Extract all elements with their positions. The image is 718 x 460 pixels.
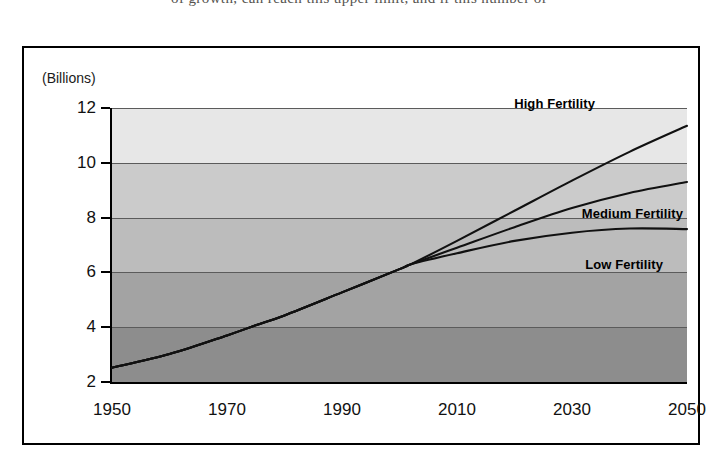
page-body-text-fragment: of growth, can reach this upper limit, a…	[0, 0, 718, 6]
y-tick-mark	[101, 107, 110, 109]
series-line-high-fertility	[112, 126, 687, 368]
plot-area: 24681012 195019701990201020302050 High F…	[110, 108, 687, 384]
x-tick-label: 2050	[668, 400, 706, 420]
x-tick-label: 1990	[323, 400, 361, 420]
y-tick-label: 6	[87, 262, 96, 282]
y-axis-unit-label: (Billions)	[42, 70, 96, 86]
y-tick-label: 4	[87, 317, 96, 337]
y-tick-mark	[101, 326, 110, 328]
figure-frame: (Billions) 24681012 19501970199020102030…	[22, 46, 700, 445]
y-tick-label: 10	[77, 153, 96, 173]
y-tick-label: 12	[77, 98, 96, 118]
series-curves	[112, 108, 687, 382]
series-label-low-fertility: Low Fertility	[585, 257, 663, 272]
y-tick-mark	[101, 162, 110, 164]
y-tick-mark	[101, 271, 110, 273]
y-tick-mark	[101, 381, 110, 383]
x-tick-label: 2010	[438, 400, 476, 420]
x-tick-label: 1950	[93, 400, 131, 420]
y-tick-label: 2	[87, 372, 96, 392]
x-tick-label: 2030	[553, 400, 591, 420]
series-label-medium-fertility: Medium Fertility	[582, 206, 683, 221]
population-projection-chart: (Billions) 24681012 19501970199020102030…	[24, 48, 698, 443]
x-tick-label: 1970	[208, 400, 246, 420]
series-line-low-fertility	[112, 228, 687, 367]
y-tick-mark	[101, 217, 110, 219]
series-label-high-fertility: High Fertility	[514, 96, 595, 111]
y-tick-label: 8	[87, 208, 96, 228]
